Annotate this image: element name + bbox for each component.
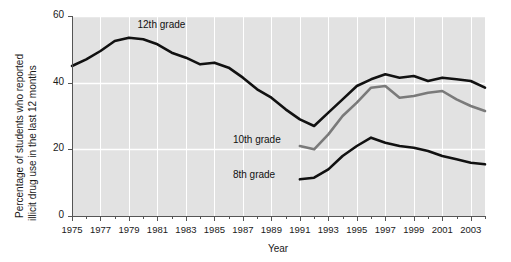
- x-axis-title: Year: [228, 243, 328, 254]
- series-label-12th-grade: 12th grade: [138, 19, 186, 30]
- axis-layer: [0, 0, 511, 262]
- series-label-8th-grade: 8th grade: [233, 169, 275, 180]
- drug-use-line-chart: 0204060 19751977197919811983198519871989…: [0, 0, 511, 262]
- series-label-10th-grade: 10th grade: [233, 134, 281, 145]
- x-tick-label: 2003: [453, 224, 489, 235]
- y-tick-label: 60: [32, 9, 64, 20]
- y-axis-title-line1: Percentage of students who reported: [14, 54, 25, 218]
- y-axis-title-line2: illicit drug use in the last 12 months: [27, 65, 38, 221]
